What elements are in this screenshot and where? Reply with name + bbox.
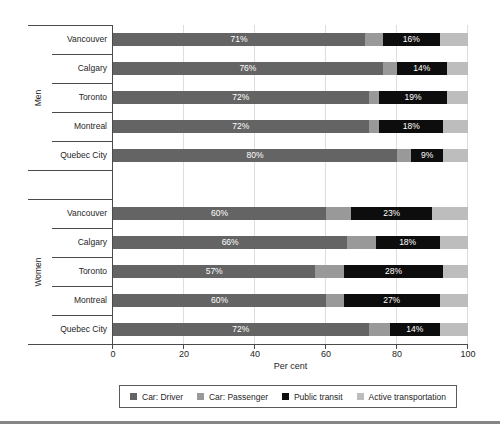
gutter-top-line bbox=[28, 25, 113, 26]
bar-value-label: 27% bbox=[383, 294, 400, 307]
segment-active-transportation bbox=[432, 207, 468, 220]
x-tick-label: 100 bbox=[453, 349, 483, 359]
city-separator-line bbox=[52, 112, 113, 113]
legend-label: Car: Passenger bbox=[209, 392, 268, 402]
bar-value-label: 18% bbox=[403, 120, 420, 133]
x-tick-label: 0 bbox=[98, 349, 128, 359]
segment-public-transit: 27% bbox=[344, 294, 440, 307]
bar-row-men-vancouver: 71%16% bbox=[113, 33, 468, 46]
car-passenger-swatch-icon bbox=[197, 393, 204, 400]
bar-value-label: 14% bbox=[406, 323, 423, 336]
bar-row-men-toronto: 72%19% bbox=[113, 91, 468, 104]
segment-active-transportation bbox=[440, 236, 468, 249]
segment-car-passenger bbox=[369, 91, 380, 104]
bar-value-label: 76% bbox=[239, 62, 256, 75]
segment-public-transit: 16% bbox=[383, 33, 440, 46]
legend-label: Active transportation bbox=[369, 392, 446, 402]
city-label-vancouver: Vancouver bbox=[30, 33, 107, 46]
segment-public-transit: 28% bbox=[344, 265, 443, 278]
figure: Men Women 71%16%76%14%72%19%72%18%80%9%6… bbox=[0, 0, 500, 436]
legend: Car: Driver Car: Passenger Public transi… bbox=[119, 385, 457, 408]
city-label-montreal: Montreal bbox=[30, 120, 107, 133]
city-separator-line bbox=[52, 315, 113, 316]
bar-row-women-vancouver: 60%23% bbox=[113, 207, 468, 220]
legend-label: Public transit bbox=[294, 392, 343, 402]
x-tick-mark bbox=[467, 345, 468, 349]
city-label-toronto: Toronto bbox=[30, 91, 107, 104]
x-tick-label: 80 bbox=[382, 349, 412, 359]
bar-row-women-toronto: 57%28% bbox=[113, 265, 468, 278]
active-transportation-swatch-icon bbox=[357, 393, 364, 400]
bar-value-label: 72% bbox=[232, 91, 249, 104]
segment-car-driver: 72% bbox=[113, 91, 369, 104]
bar-row-men-montreal: 72%18% bbox=[113, 120, 468, 133]
bar-value-label: 66% bbox=[222, 236, 239, 249]
bar-row-women-quebec-city: 72%14% bbox=[113, 323, 468, 336]
x-axis-title: Per cent bbox=[113, 361, 468, 371]
city-label-quebec-city: Quebec City bbox=[30, 149, 107, 162]
segment-active-transportation bbox=[440, 323, 468, 336]
x-tick-label: 40 bbox=[240, 349, 270, 359]
segment-public-transit: 18% bbox=[376, 236, 440, 249]
city-separator-line bbox=[52, 54, 113, 55]
bar-value-label: 14% bbox=[413, 62, 430, 75]
legend-item-car-driver: Car: Driver bbox=[130, 392, 183, 402]
bar-value-label: 57% bbox=[206, 265, 223, 278]
segment-car-driver: 60% bbox=[113, 294, 326, 307]
bar-value-label: 9% bbox=[421, 149, 433, 162]
segment-active-transportation bbox=[443, 120, 468, 133]
city-separator-line bbox=[52, 286, 113, 287]
bar-value-label: 80% bbox=[246, 149, 263, 162]
bar-value-label: 18% bbox=[399, 236, 416, 249]
x-tick-mark bbox=[396, 345, 397, 349]
page-divider-rule bbox=[0, 421, 500, 424]
x-tick-mark bbox=[254, 345, 255, 349]
segment-car-passenger bbox=[369, 120, 380, 133]
segment-car-passenger bbox=[326, 207, 351, 220]
segment-active-transportation bbox=[443, 265, 468, 278]
segment-car-driver: 71% bbox=[113, 33, 365, 46]
x-tick-label: 20 bbox=[169, 349, 199, 359]
segment-public-transit: 19% bbox=[379, 91, 446, 104]
segment-car-driver: 76% bbox=[113, 62, 383, 75]
segment-car-passenger bbox=[347, 236, 375, 249]
group-separator-line bbox=[28, 199, 113, 200]
segment-car-passenger bbox=[369, 323, 390, 336]
segment-public-transit: 14% bbox=[397, 62, 447, 75]
segment-car-driver: 57% bbox=[113, 265, 315, 278]
segment-active-transportation bbox=[440, 33, 468, 46]
segment-car-driver: 80% bbox=[113, 149, 397, 162]
city-label-quebec-city: Quebec City bbox=[30, 323, 107, 336]
city-separator-line bbox=[52, 257, 113, 258]
city-label-montreal: Montreal bbox=[30, 294, 107, 307]
legend-item-active-transportation: Active transportation bbox=[357, 392, 446, 402]
plot-area: 71%16%76%14%72%19%72%18%80%9%60%23%66%18… bbox=[113, 25, 468, 344]
bar-value-label: 60% bbox=[211, 207, 228, 220]
city-separator-line bbox=[52, 228, 113, 229]
bar-row-women-calgary: 66%18% bbox=[113, 236, 468, 249]
public-transit-swatch-icon bbox=[282, 393, 289, 400]
legend-label: Car: Driver bbox=[142, 392, 183, 402]
segment-car-passenger bbox=[365, 33, 383, 46]
city-label-calgary: Calgary bbox=[30, 236, 107, 249]
segment-car-passenger bbox=[383, 62, 397, 75]
car-driver-swatch-icon bbox=[130, 393, 137, 400]
bar-value-label: 72% bbox=[232, 323, 249, 336]
segment-car-passenger bbox=[326, 294, 344, 307]
segment-public-transit: 14% bbox=[390, 323, 440, 336]
bar-value-label: 71% bbox=[231, 33, 248, 46]
city-label-toronto: Toronto bbox=[30, 265, 107, 278]
segment-active-transportation bbox=[447, 62, 468, 75]
x-tick-mark bbox=[112, 345, 113, 349]
x-axis-line bbox=[28, 344, 468, 345]
bar-row-men-calgary: 76%14% bbox=[113, 62, 468, 75]
segment-public-transit: 18% bbox=[379, 120, 443, 133]
group-separator-line bbox=[28, 170, 113, 171]
segment-car-passenger bbox=[397, 149, 411, 162]
segment-car-driver: 72% bbox=[113, 120, 369, 133]
city-separator-line bbox=[52, 141, 113, 142]
bar-value-label: 60% bbox=[211, 294, 228, 307]
segment-active-transportation bbox=[443, 149, 468, 162]
segment-car-driver: 72% bbox=[113, 323, 369, 336]
segment-active-transportation bbox=[440, 294, 468, 307]
